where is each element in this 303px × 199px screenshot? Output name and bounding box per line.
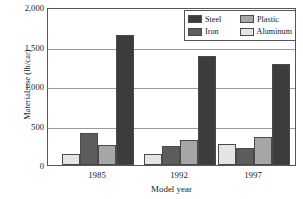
legend-entry-aluminum: Aluminum <box>240 27 292 36</box>
x-tick-label-1985: 1985 <box>67 170 127 180</box>
legend-entry-plastic: Plastic <box>240 15 292 24</box>
legend-label-plastic: Plastic <box>257 15 279 24</box>
y-tick-label: 1,000 <box>2 83 44 92</box>
bar-1985-aluminum <box>62 154 80 165</box>
y-tick-label: 2,000 <box>2 4 44 13</box>
legend-row-bottom: Iron Aluminum <box>188 26 292 39</box>
y-tick-label: 1,500 <box>2 43 44 52</box>
bar-1985-steel <box>116 35 134 165</box>
bar-1997-aluminum <box>218 144 236 165</box>
x-tick-label-1992: 1992 <box>149 170 209 180</box>
legend-swatch-aluminum-icon <box>240 28 254 36</box>
bar-1997-plastic <box>254 137 272 165</box>
legend-row-top: Steel Plastic <box>188 13 292 26</box>
y-axis-tick-labels: 2,000 1,500 1,000 500 0 <box>0 0 44 199</box>
bar-1992-plastic <box>180 140 198 165</box>
bar-chart-figure: Material use (lb/car) 2,000 1,500 1,000 … <box>0 0 303 199</box>
bar-1997-steel <box>272 64 290 165</box>
bar-1992-aluminum <box>144 154 162 166</box>
bar-1997-iron <box>236 148 254 165</box>
x-tick-label-1997: 1997 <box>223 170 283 180</box>
bar-1992-steel <box>198 56 216 165</box>
bar-1992-iron <box>162 146 180 165</box>
legend-swatch-plastic-icon <box>240 15 254 23</box>
y-tick-label: 0 <box>2 162 44 171</box>
bar-1985-iron <box>80 133 98 165</box>
legend-swatch-steel-icon <box>188 15 202 23</box>
legend-entry-iron: Iron <box>188 27 240 36</box>
bar-1985-plastic <box>98 145 116 165</box>
bar-group-1985 <box>62 9 134 165</box>
legend-swatch-iron-icon <box>188 28 202 36</box>
chart-legend: Steel Plastic Iron Aluminum <box>184 10 296 41</box>
legend-label-iron: Iron <box>205 27 219 36</box>
x-axis-title: Model year <box>47 184 296 194</box>
legend-label-aluminum: Aluminum <box>257 27 292 36</box>
legend-label-steel: Steel <box>205 15 221 24</box>
y-tick-label: 500 <box>2 122 44 131</box>
legend-entry-steel: Steel <box>188 15 240 24</box>
